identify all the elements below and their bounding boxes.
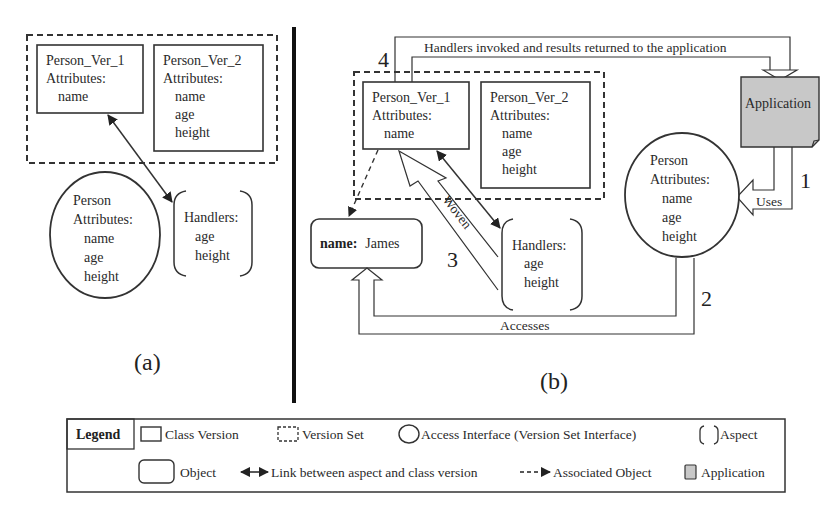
attribute-item: name	[502, 126, 532, 141]
object-james: name: James	[311, 219, 422, 268]
attribute-item: name	[175, 89, 205, 104]
attributes-label: Attributes:	[650, 172, 710, 187]
attributes-label: Attributes:	[73, 212, 133, 227]
object-value: James	[365, 236, 399, 251]
attribute-item: age	[175, 107, 194, 122]
access-interface-a: Person Attributes: name age height	[50, 172, 160, 298]
attribute-item: name	[662, 191, 692, 206]
application-icon	[685, 465, 696, 479]
access-interface-b: Person Attributes: name age height	[625, 133, 739, 257]
legend-label: Version Set	[302, 427, 364, 442]
attribute-item: height	[175, 125, 210, 140]
class-version-name: Person_Ver_1	[372, 90, 451, 105]
attribute-item: age	[84, 250, 103, 265]
interface-name: Person	[650, 153, 688, 168]
diagram-canvas: Person_Ver_1 Attributes: name Person_Ver…	[0, 0, 839, 523]
class-version-b-1: Person_Ver_1 Attributes: name	[363, 82, 469, 149]
handler-item: age	[195, 229, 214, 244]
handlers-invoked-label: Handlers invoked and results returned to…	[424, 40, 727, 55]
caption-a: (a)	[134, 349, 161, 375]
attributes-label: Attributes:	[163, 71, 223, 86]
accesses-label: Accesses	[500, 318, 549, 333]
aspect-label: Handlers:	[512, 238, 566, 253]
class-version-a-2: Person_Ver_2 Attributes: name age height	[154, 45, 263, 151]
uses-label: Uses	[756, 194, 782, 209]
step-1: 1	[800, 168, 811, 193]
panel-a: Person_Ver_1 Attributes: name Person_Ver…	[27, 35, 277, 375]
handler-item: age	[524, 256, 543, 271]
attribute-item: age	[502, 144, 521, 159]
legend-label: Link between aspect and class version	[271, 465, 478, 480]
attributes-label: Attributes:	[490, 108, 550, 123]
legend-title: Legend	[76, 427, 121, 442]
class-version-name: Person_Ver_1	[46, 53, 125, 68]
application-label: Application	[745, 96, 811, 111]
handler-item: height	[524, 275, 559, 290]
handlers-invoked-flow: Handlers invoked and results returned to…	[378, 37, 797, 82]
legend: Legend Class Version Version Set Access …	[67, 419, 785, 492]
legend-label: Object	[180, 465, 216, 480]
panel-b: Handlers invoked and results returned to…	[311, 37, 819, 394]
legend-label: Application	[701, 465, 765, 480]
attributes-label: Attributes:	[372, 108, 432, 123]
attribute-item: name	[384, 126, 414, 141]
interface-name: Person	[73, 193, 111, 208]
attribute-item: height	[84, 269, 119, 284]
attribute-item: age	[662, 210, 681, 225]
step-2: 2	[701, 286, 712, 311]
caption-b: (b)	[540, 368, 568, 394]
class-version-name: Person_Ver_2	[163, 53, 242, 68]
attribute-item: height	[502, 162, 537, 177]
legend-label: Aspect	[720, 427, 758, 442]
aspect-b: Handlers: age height	[502, 219, 582, 310]
class-version-a-1: Person_Ver_1 Attributes: name	[37, 45, 143, 113]
class-version-name: Person_Ver_2	[490, 90, 569, 105]
application-node: Application	[741, 77, 819, 147]
legend-label: Associated Object	[553, 465, 652, 480]
object-key: name:	[320, 236, 357, 251]
attribute-item: name	[84, 231, 114, 246]
handler-item: height	[195, 248, 230, 263]
aspect-label: Handlers:	[184, 210, 238, 225]
step-3: 3	[447, 247, 458, 272]
class-version-b-2: Person_Ver_2 Attributes: name age height	[481, 82, 590, 188]
object-text: name: James	[320, 234, 400, 251]
attribute-item: name	[58, 89, 88, 104]
panel-divider	[292, 27, 296, 403]
uses-flow: Uses 1	[737, 147, 811, 215]
step-4: 4	[378, 47, 389, 72]
aspect-a: Handlers: age height	[174, 191, 252, 276]
legend-label: Class Version	[165, 427, 239, 442]
attributes-label: Attributes:	[46, 71, 106, 86]
attribute-item: height	[662, 229, 697, 244]
legend-label: Access Interface (Version Set Interface)	[421, 427, 636, 442]
